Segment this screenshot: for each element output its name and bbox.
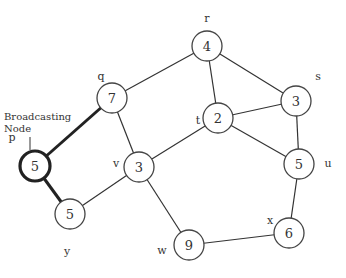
node-value: 3 <box>135 160 143 175</box>
node-value: 6 <box>285 226 293 241</box>
node-v: 3v <box>112 152 154 182</box>
node-value: 5 <box>31 159 39 174</box>
node-value: 3 <box>292 94 300 109</box>
node-p: 5p <box>8 131 50 182</box>
node-y: 5y <box>55 199 85 258</box>
edge-r-s <box>207 46 296 101</box>
node-w: 9w <box>157 230 204 260</box>
node-r: 4r <box>192 12 222 62</box>
node-label: v <box>112 157 120 170</box>
node-x: 6x <box>267 214 304 249</box>
annotation-line-1: Broadcasting <box>4 111 72 122</box>
node-value: 2 <box>214 111 222 126</box>
node-label: s <box>315 70 321 83</box>
nodes-layer: 4r7q3s2t5p3v5u5y6x9w <box>8 12 331 261</box>
node-s: 3s <box>281 70 321 117</box>
node-label: r <box>204 12 210 25</box>
node-u: 5u <box>284 149 332 179</box>
node-label: w <box>157 244 167 257</box>
node-label: x <box>267 214 274 227</box>
node-value: 5 <box>295 157 303 172</box>
graph-diagram: 4r7q3s2t5p3v5u5y6x9w Broadcasting Node <box>0 0 346 278</box>
node-value: 4 <box>203 39 211 54</box>
node-value: 7 <box>108 91 116 106</box>
node-label: q <box>97 70 104 83</box>
annotation-line-2: Node <box>4 123 31 134</box>
node-q: 7q <box>97 70 127 114</box>
node-label: y <box>63 245 71 258</box>
node-value: 9 <box>185 238 193 253</box>
node-value: 5 <box>66 207 74 222</box>
edge-q-r <box>112 46 207 98</box>
node-label: t <box>196 114 201 127</box>
node-label: u <box>324 157 331 170</box>
